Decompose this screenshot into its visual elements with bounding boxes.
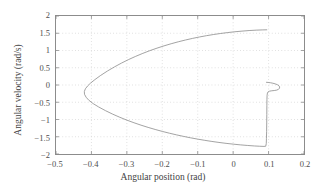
- y-tick-label: −2: [0, 151, 50, 160]
- x-tick-label: −0.1: [190, 160, 205, 169]
- y-tick-label: 1.5: [0, 28, 50, 37]
- y-tick-label: −1.5: [0, 133, 50, 142]
- y-tick-label: −1: [0, 116, 50, 125]
- x-axis-title: Angular position (rad): [0, 172, 326, 182]
- data-series-trajectory: [56, 16, 304, 154]
- x-tick-label: 0: [231, 160, 235, 169]
- y-tick-label: 0.5: [0, 63, 50, 72]
- chart-figure: 21.510.50−0.5−1−1.5−2 −0.5−0.4−0.3−0.2−0…: [0, 0, 326, 194]
- y-tick-label: 1: [0, 46, 50, 55]
- y-tick-label: 0: [0, 81, 50, 90]
- x-tick-label: 0.1: [264, 160, 275, 169]
- x-tick-label: −0.3: [119, 160, 134, 169]
- y-tick-label: −0.5: [0, 98, 50, 107]
- y-tick-label: 2: [0, 11, 50, 20]
- x-tick-label: 0.2: [300, 160, 311, 169]
- y-axis-title: Angular velocity (rad/s): [13, 20, 23, 160]
- x-tick-label: −0.5: [47, 160, 62, 169]
- plot-area: [55, 15, 305, 155]
- x-tick-label: −0.2: [154, 160, 169, 169]
- x-tick-label: −0.4: [83, 160, 98, 169]
